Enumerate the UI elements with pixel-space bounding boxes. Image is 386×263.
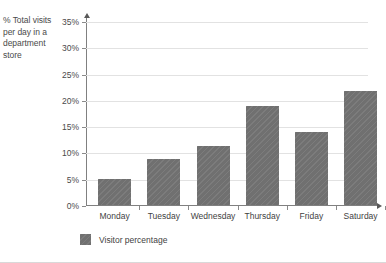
bar — [295, 132, 328, 205]
y-axis-title-line-1: % Total visits — [3, 15, 58, 27]
y-axis-title-line-4: store — [3, 50, 58, 62]
value-axis-arrowhead — [84, 13, 90, 18]
gridline — [86, 101, 368, 102]
y-tick-mark — [82, 101, 86, 102]
x-tick-label: Friday — [300, 211, 324, 221]
gridline — [86, 127, 368, 128]
x-tick-label: Tuesday — [148, 211, 180, 221]
x-tick-label: Monday — [99, 211, 129, 221]
y-tick-label: 30% — [62, 43, 79, 53]
y-tick-mark — [82, 180, 86, 181]
category-axis-line — [86, 205, 378, 206]
gridline — [86, 22, 368, 23]
bar — [246, 106, 279, 205]
y-tick-mark — [82, 206, 86, 207]
bar-chart-figure: % Total visits per day in a department s… — [0, 0, 386, 263]
bar — [197, 146, 230, 205]
y-tick-label: 25% — [62, 70, 79, 80]
y-tick-label: 35% — [62, 17, 79, 27]
y-tick-label: 10% — [62, 148, 79, 158]
y-axis-title: % Total visits per day in a department s… — [3, 15, 58, 61]
y-tick-mark — [82, 127, 86, 128]
y-tick-label: 0% — [67, 201, 79, 211]
bar — [147, 159, 180, 205]
gridline — [86, 48, 368, 49]
y-tick-label: 5% — [67, 175, 79, 185]
legend-swatch-visitor-percentage — [80, 234, 91, 245]
x-tick-mark — [139, 206, 140, 210]
y-tick-label: 20% — [62, 96, 79, 106]
y-tick-label: 15% — [62, 122, 79, 132]
gridline — [86, 75, 368, 76]
x-tick-label: Thursday — [244, 211, 279, 221]
plot-area: 0%5%10%15%20%25%30%35% MondayTuesdayWedn… — [86, 22, 368, 206]
x-tick-label: Wednesday — [191, 211, 236, 221]
y-axis-title-line-2: per day in a — [3, 27, 58, 39]
y-tick-mark — [82, 22, 86, 23]
x-tick-mark — [238, 206, 239, 210]
x-tick-mark — [336, 206, 337, 210]
x-tick-mark — [188, 206, 189, 210]
y-tick-mark — [82, 153, 86, 154]
category-axis-arrowhead — [377, 203, 382, 209]
bar — [344, 91, 377, 205]
y-axis-title-line-3: department — [3, 38, 58, 50]
y-tick-mark — [82, 75, 86, 76]
chart-legend: Visitor percentage — [80, 234, 167, 245]
legend-label-visitor-percentage: Visitor percentage — [99, 235, 167, 245]
bar — [98, 179, 131, 205]
x-tick-label: Saturday — [344, 211, 378, 221]
y-tick-mark — [82, 48, 86, 49]
value-axis-line — [86, 16, 87, 206]
x-tick-mark — [287, 206, 288, 210]
